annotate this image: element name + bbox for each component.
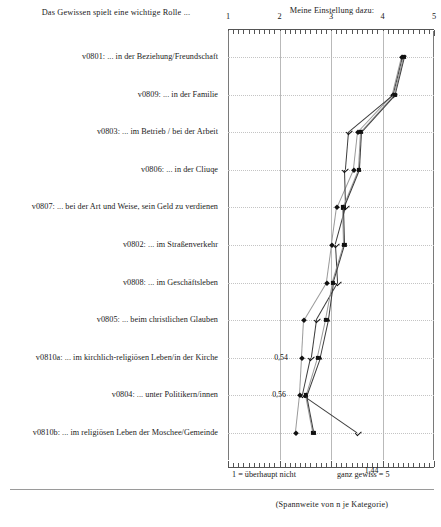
marker-glyph: [357, 167, 361, 171]
x-axis-tick: [383, 461, 384, 467]
x-axis-tick: [264, 463, 265, 467]
marker-glyph: [326, 318, 330, 322]
x-axis-tick: [413, 463, 414, 467]
gridline-vertical: [383, 31, 384, 460]
marker-glyph: [305, 393, 309, 397]
x-axis-tick: [274, 463, 275, 467]
category-label: v0804: ... unter Politikern/innen: [0, 390, 218, 399]
x-axis-tick: [228, 461, 229, 467]
marker-glyph: [342, 205, 346, 209]
category-label: v0806: ... in der Cliuqe: [0, 165, 218, 174]
marker-glyph: [393, 92, 397, 96]
scale-anchor-high: ganz gewiss = 5: [337, 470, 390, 479]
x-axis-tick: [285, 463, 286, 467]
x-axis-tick: [362, 463, 363, 467]
value-annotation: 0,54: [274, 353, 288, 362]
scale-anchor-low: 1 = überhaupt nicht: [232, 470, 296, 479]
marker-glyph: [343, 242, 347, 246]
x-axis-tick: [398, 463, 399, 467]
x-axis-tick-label: 2: [270, 12, 290, 21]
category-label-column: v0801: ... in der Beziehung/Freundschaft…: [0, 0, 222, 527]
x-axis-tick: [419, 463, 420, 467]
x-axis-tick: [316, 463, 317, 467]
x-axis-tick-label: 4: [373, 12, 393, 21]
value-annotation: 1,44: [365, 466, 379, 475]
category-label: v0807: ... bei der Art und Weise, sein G…: [0, 202, 218, 211]
x-axis-tick: [346, 463, 347, 467]
x-axis-tick: [336, 463, 337, 467]
x-axis-tick: [434, 30, 435, 36]
category-label: v0810a: ... im kirchlich-religiösen Lebe…: [0, 353, 218, 362]
x-axis-tick: [341, 463, 342, 467]
x-axis-tick: [269, 463, 270, 467]
x-axis-tick: [434, 461, 435, 467]
category-label: v0809: ... in der Familie: [0, 90, 218, 99]
x-axis-tick: [352, 463, 353, 467]
value-annotation: 0,56: [272, 390, 286, 399]
x-axis-tick: [300, 463, 301, 467]
marker-glyph: [331, 280, 335, 284]
x-axis-tick: [331, 461, 332, 467]
x-axis-tick: [259, 463, 260, 467]
plot-area: [228, 31, 434, 460]
category-label: v0802: ... im Straßenverkehr: [0, 240, 218, 249]
x-axis-tick: [321, 463, 322, 467]
x-axis-tick: [254, 463, 255, 467]
x-axis-tick: [280, 461, 281, 467]
marker-glyph: [403, 54, 407, 58]
x-axis-tick: [403, 463, 404, 467]
category-label: v0808: ... im Geschäftsleben: [0, 278, 218, 287]
x-axis-bottom-ruler: [228, 461, 434, 468]
x-axis-tick: [238, 463, 239, 467]
category-label: v0801: ... in der Beziehung/Freundschaft: [0, 52, 218, 61]
x-axis-tick-label: 3: [321, 12, 341, 21]
bottom-divider: [10, 489, 434, 490]
x-axis-tick: [243, 463, 244, 467]
marker-glyph: [318, 355, 322, 359]
marker-glyph: [359, 130, 363, 134]
x-axis-tick: [310, 463, 311, 467]
x-axis-tick: [290, 463, 291, 467]
x-axis-tick: [305, 463, 306, 467]
category-label: v0810b: ... im religiösen Leben der Mosc…: [0, 428, 218, 437]
x-axis-tick: [388, 463, 389, 467]
x-axis-tick: [408, 463, 409, 467]
x-axis-tick-label: 1: [218, 12, 238, 21]
x-axis-tick: [393, 463, 394, 467]
x-axis-tick: [429, 463, 430, 467]
category-label: v0803: ... im Betrieb / bei der Arbeit: [0, 127, 218, 136]
marker-glyph: [312, 430, 316, 434]
x-axis-tick: [424, 463, 425, 467]
category-label: v0805: ... beim christlichen Glauben: [0, 315, 218, 324]
chart-page: Das Gewissen spielt eine wichtige Rolle …: [0, 0, 441, 527]
chart-footnote: (Spannweite von n je Kategorie): [228, 500, 436, 509]
x-axis-tick: [295, 463, 296, 467]
x-axis-tick: [249, 463, 250, 467]
x-axis-tick: [326, 463, 327, 467]
x-axis-tick: [357, 463, 358, 467]
x-axis-tick: [233, 463, 234, 467]
x-axis-tick-label: 5: [424, 12, 441, 21]
